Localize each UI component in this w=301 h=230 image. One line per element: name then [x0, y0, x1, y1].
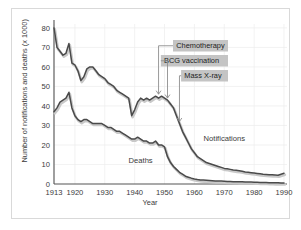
y-tick-70: 70 — [42, 43, 50, 52]
x-tick-1960: 1960 — [186, 188, 203, 197]
series-line-notifications — [54, 28, 284, 175]
x-tick-1920: 1920 — [66, 188, 83, 197]
y-tick-20: 20 — [42, 141, 50, 150]
x-tick-1990: 1990 — [276, 188, 293, 197]
y-tick-80: 80 — [42, 24, 50, 33]
y-tick-50: 50 — [42, 82, 50, 91]
figure: Number of notifications and deaths (x 10… — [0, 0, 301, 230]
y-tick-60: 60 — [42, 63, 50, 72]
axis-lines — [54, 20, 287, 184]
series-label-deaths: Deaths — [129, 156, 153, 165]
y-tick-10: 10 — [42, 160, 50, 169]
x-tick-1980: 1980 — [246, 188, 263, 197]
y-tick-40: 40 — [42, 102, 50, 111]
annotation-label-1: BCG vaccination — [164, 56, 219, 65]
x-tick-1970: 1970 — [216, 188, 233, 197]
y-tick-labels: 01020304050607080 — [42, 24, 50, 189]
line-chart: 01020304050607080 1913192019301940195019… — [0, 0, 301, 230]
plot-area: 01020304050607080 1913192019301940195019… — [0, 0, 301, 230]
annotation-label-0: Chemotherapy — [176, 41, 225, 50]
series-shadow-1 — [55, 94, 285, 185]
annotations: ChemotherapyBCG vaccinationMass X-ray — [156, 40, 228, 122]
x-tick-1930: 1930 — [96, 188, 113, 197]
y-tick-30: 30 — [42, 121, 50, 130]
x-tick-1940: 1940 — [126, 188, 143, 197]
x-tick-labels: 191319201930194019501960197019801990 — [46, 188, 293, 197]
x-tick-1913: 1913 — [46, 188, 63, 197]
x-tick-1950: 1950 — [156, 188, 173, 197]
annotation-label-2: Mass X-ray — [184, 71, 222, 80]
series-label-notifications: Notifications — [204, 134, 246, 143]
